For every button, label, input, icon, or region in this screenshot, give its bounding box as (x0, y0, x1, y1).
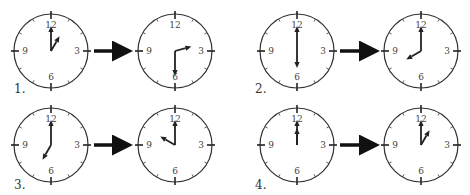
numeral-3: 3 (444, 46, 450, 56)
numeral-3: 3 (320, 140, 326, 150)
numeral-6: 6 (294, 166, 300, 176)
numeral-9: 9 (22, 140, 28, 150)
numeral-12: 12 (169, 20, 180, 30)
numeral-3: 3 (74, 46, 80, 56)
problem-label: 2. (255, 82, 266, 96)
clock-end: 12369 (381, 11, 461, 91)
problem-label: 1. (14, 82, 25, 96)
numeral-6: 6 (48, 166, 54, 176)
numeral-6: 6 (294, 72, 300, 82)
numeral-9: 9 (146, 46, 152, 56)
numeral-3: 3 (198, 46, 204, 56)
numeral-3: 3 (320, 46, 326, 56)
problems-layer: 12369123691.12369123692.12369123693.1236… (11, 11, 461, 192)
problem-label: 4. (255, 178, 266, 192)
clock-end: 12369 (135, 11, 215, 91)
numeral-9: 9 (392, 140, 398, 150)
clock-start: 12369 (11, 105, 91, 185)
numeral-6: 6 (418, 72, 424, 82)
clock-start: 12369 (257, 11, 337, 91)
problem-3: 12369123693. (11, 105, 215, 192)
numeral-6: 6 (172, 166, 178, 176)
clock-end: 12369 (381, 105, 461, 185)
problem-4: 12369123694. (255, 105, 461, 192)
numeral-6: 6 (48, 72, 54, 82)
numeral-6: 6 (418, 166, 424, 176)
numeral-9: 9 (146, 140, 152, 150)
numeral-3: 3 (444, 140, 450, 150)
problem-1: 12369123691. (11, 11, 215, 96)
problem-label: 3. (14, 178, 25, 192)
clock-start: 12369 (11, 11, 91, 91)
numeral-9: 9 (268, 46, 274, 56)
clock-problems-figure: 12369123691.12369123692.12369123693.1236… (0, 0, 470, 195)
numeral-3: 3 (198, 140, 204, 150)
clock-start: 12369 (257, 105, 337, 185)
numeral-3: 3 (74, 140, 80, 150)
numeral-9: 9 (22, 46, 28, 56)
problem-2: 12369123692. (255, 11, 461, 96)
clock-end: 12369 (135, 105, 215, 185)
numeral-9: 9 (392, 46, 398, 56)
numeral-9: 9 (268, 140, 274, 150)
